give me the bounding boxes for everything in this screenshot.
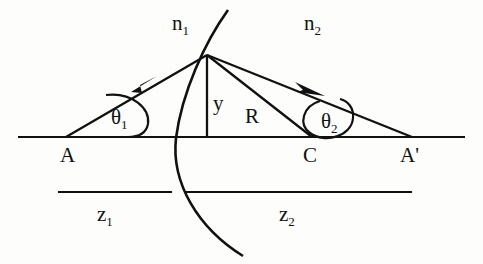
label-R: R — [245, 104, 259, 128]
label-n2: n2 — [304, 11, 321, 38]
spherical-surface-arc — [175, 10, 243, 256]
label-z1: z1 — [97, 202, 113, 229]
refracted-ray — [207, 55, 412, 137]
label-point-a-prime: A' — [400, 143, 419, 167]
refracted-ray-arrowhead — [295, 82, 325, 96]
label-point-a: A — [60, 143, 76, 167]
diagram-canvas: n1 n2 θ1 θ2 y R A C A' z1 z2 — [0, 0, 483, 264]
label-theta2: θ2 — [321, 109, 338, 136]
label-n1: n1 — [172, 11, 189, 38]
optics-diagram: n1 n2 θ1 θ2 y R A C A' z1 z2 — [0, 0, 483, 264]
label-y: y — [213, 91, 224, 115]
label-point-c: C — [303, 143, 317, 167]
label-theta1: θ1 — [111, 105, 128, 132]
label-z2: z2 — [279, 202, 295, 229]
